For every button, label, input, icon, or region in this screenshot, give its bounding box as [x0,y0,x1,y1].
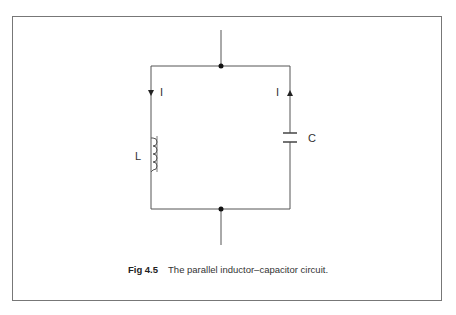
top-junction-dot [219,64,224,69]
current-arrow-down-icon [148,90,154,96]
capacitor-symbol [283,133,297,142]
current-arrow-up-icon [287,90,293,96]
capacitor-label: C [308,132,316,144]
current-label-right: I [276,86,279,98]
inductor-symbol [151,136,157,172]
figure-caption: Fig 4.5The parallel inductor–capacitor c… [0,264,456,275]
bottom-junction-dot [219,207,224,212]
figure-number: Fig 4.5 [128,264,158,275]
inductor-label: L [135,150,141,162]
current-label-left: I [160,86,163,98]
caption-text: The parallel inductor–capacitor circuit. [168,264,328,275]
